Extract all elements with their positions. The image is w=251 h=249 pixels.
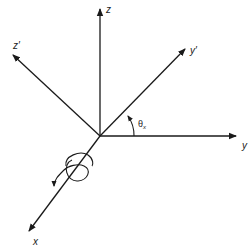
x-axis-label: x xyxy=(32,236,39,247)
theta-angle-label: θx xyxy=(138,119,147,130)
z-axis-label: z xyxy=(105,4,111,15)
y-prime-axis-label: y′ xyxy=(189,45,198,56)
z-prime-axis-label: z′ xyxy=(12,40,21,51)
y-axis-label: y xyxy=(241,140,248,151)
coordinate-rotation-diagram: z z′ y′ y x θx xyxy=(0,0,251,249)
rotation-about-x-icon xyxy=(54,153,93,186)
x-axis xyxy=(29,136,100,231)
theta-angle-arc xyxy=(128,116,134,136)
diagram-canvas: z z′ y′ y x θx xyxy=(0,0,251,249)
z-prime-axis xyxy=(13,55,100,136)
